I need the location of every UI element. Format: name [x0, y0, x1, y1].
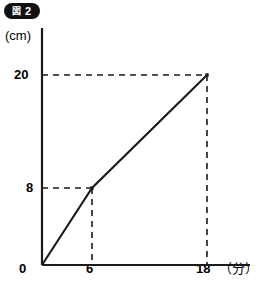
data-point-marker-18-20	[205, 73, 208, 76]
data-point-marker-6-8	[90, 186, 93, 189]
data-series-line	[42, 75, 207, 265]
figure-container: 図 2 (cm) （分） 20 8 0 6 18	[0, 0, 256, 285]
plot-area	[0, 0, 256, 285]
